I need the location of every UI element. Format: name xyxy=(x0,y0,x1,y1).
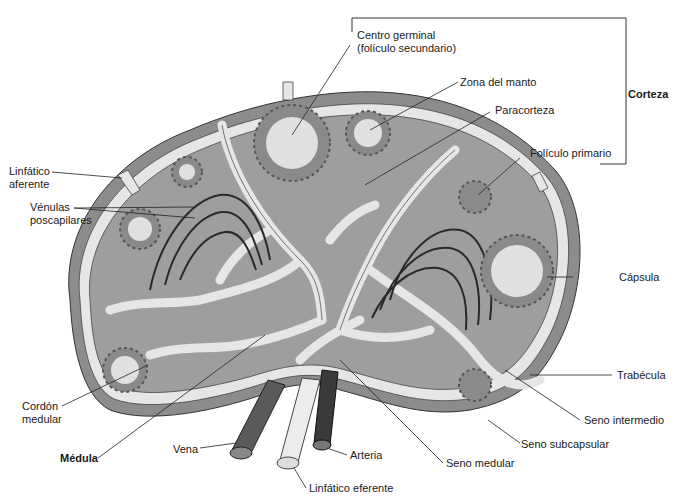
label-cordon-medular: Cordón medular xyxy=(22,400,62,426)
label-vena: Vena xyxy=(173,443,198,456)
label-venulas-line2: poscapilares xyxy=(30,214,92,227)
primary-follicle xyxy=(459,181,491,213)
label-corteza: Corteza xyxy=(628,88,668,101)
label-seno-medular: Seno medular xyxy=(446,457,515,470)
label-centro-germinal-line2: (folículo secundario) xyxy=(357,42,456,55)
label-centro-germinal-line1: Centro germinal xyxy=(357,29,456,42)
label-medula: Médula xyxy=(60,452,98,465)
label-zona-manto: Zona del manto xyxy=(460,76,536,89)
label-linfatico-aferente: Linfático aferente xyxy=(9,165,50,191)
label-seno-intermedio: Seno intermedio xyxy=(584,414,664,427)
label-trabecula: Trabécula xyxy=(617,369,666,382)
label-seno-subcapsular: Seno subcapsular xyxy=(521,438,609,451)
efferent-lymphatic xyxy=(280,378,320,462)
label-capsula: Cápsula xyxy=(619,271,659,284)
label-paracorteza: Paracorteza xyxy=(495,104,554,117)
label-centro-germinal: Centro germinal (folículo secundario) xyxy=(357,29,456,55)
label-foliculo-primario: Folículo primario xyxy=(530,147,611,160)
label-venulas-line1: Vénulas xyxy=(30,201,92,214)
label-cordon-line1: Cordón xyxy=(22,400,62,413)
label-arteria: Arteria xyxy=(350,449,382,462)
follicle-medulla-right xyxy=(459,369,491,401)
label-linfatico-eferente: Linfático eferente xyxy=(309,482,393,495)
label-linfatico-aferente-line2: aferente xyxy=(9,178,50,191)
label-linfatico-aferente-line1: Linfático xyxy=(9,165,50,178)
label-venulas-poscapilares: Vénulas poscapilares xyxy=(30,201,92,227)
label-cordon-line2: medular xyxy=(22,413,62,426)
lymph-node-diagram xyxy=(0,0,679,498)
